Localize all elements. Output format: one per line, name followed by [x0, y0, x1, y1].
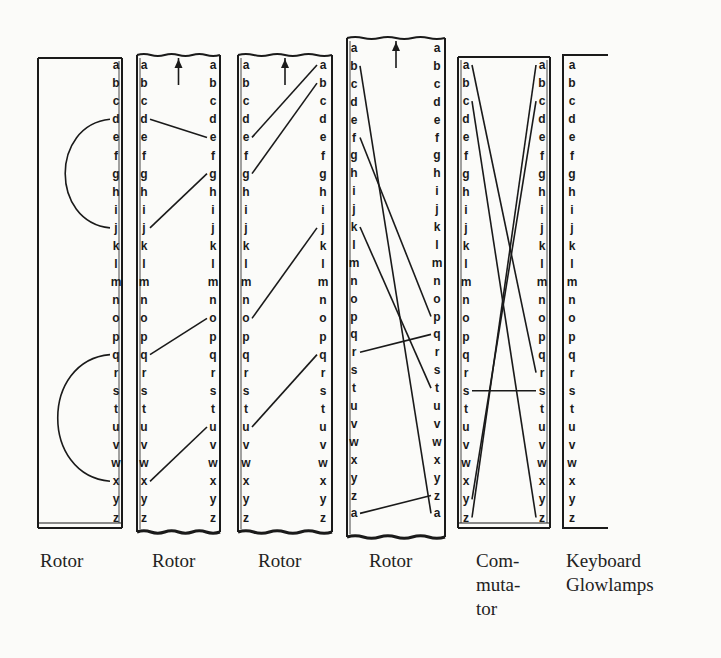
keyboard-label-line-1: Keyboard	[566, 551, 641, 571]
rotor-1-right-contact: x	[113, 474, 120, 488]
rotor-2-left-contact: z	[141, 511, 147, 525]
rotor-2-left-contact: v	[141, 438, 148, 452]
glowlamp-g: g	[568, 167, 575, 181]
rotor-3-right-contact: j	[320, 221, 324, 235]
rotor-4-right-contact: d	[433, 95, 440, 109]
rotor-2-wire	[150, 427, 207, 481]
rotor-3-right-contact: f	[321, 149, 326, 163]
rotor-3-wire	[252, 228, 317, 319]
rotor-2-right-contact: v	[210, 438, 217, 452]
rotor-3-left-contact: m	[241, 275, 252, 289]
rotor-1-right-contact: m	[111, 275, 122, 289]
commutator-left-contact: e	[463, 130, 470, 144]
commutator-left-contact: q	[462, 348, 469, 362]
commutator-left-contact: v	[463, 438, 470, 452]
commutator-wire	[472, 65, 536, 518]
rotor-4-left-contact: u	[350, 399, 357, 413]
rotor-1-right-contact: g	[112, 167, 119, 181]
rotor-4-left-contact: x	[351, 453, 358, 467]
rotor-2-left-contact: x	[141, 474, 148, 488]
commutator-right-contact: w	[536, 456, 547, 470]
commutator-right-contact: s	[539, 384, 546, 398]
glowlamp-t: t	[570, 402, 574, 416]
rotor-4-left-contact: h	[350, 166, 357, 180]
rotor-1-right-contact: t	[114, 402, 118, 416]
glowlamp-w: w	[566, 456, 577, 470]
glowlamp-q: q	[568, 348, 575, 362]
rotor-2-left-contact: g	[140, 167, 147, 181]
rotor-1-right-contact: q	[112, 348, 119, 362]
rotor-4-left-contact: d	[350, 95, 357, 109]
rotor-3-left-contact: g	[242, 167, 249, 181]
rotor-2-left-contact: h	[140, 185, 147, 199]
rotor-4-wire	[360, 227, 431, 388]
rotor-2-right-contact: w	[207, 456, 218, 470]
commutator-right-contact: c	[539, 94, 546, 108]
rotor-4-left-contact: e	[351, 113, 358, 127]
rotor-4-right-contact: o	[433, 292, 440, 306]
rotor-3-left-contact: n	[242, 293, 249, 307]
commutator-right-contact: n	[538, 293, 545, 307]
rotor-1-right-contact: a	[113, 58, 120, 72]
rotor-2-left-contact: w	[138, 456, 149, 470]
rotor-4-label: Rotor	[369, 551, 412, 571]
rotor-4-right-contact: w	[431, 435, 442, 449]
rotor-3-wire	[252, 355, 317, 427]
commutator-right-contact: z	[539, 511, 545, 525]
rotor-4-left-contact: f	[352, 131, 357, 145]
rotor-2-right-contact: x	[210, 474, 217, 488]
commutator-right-contact: e	[539, 130, 546, 144]
rotor-4-left-contact: k	[351, 220, 358, 234]
rotor-4-left-contact: q	[350, 327, 357, 341]
rotor-3-left-contact: d	[242, 112, 249, 126]
rotor-2-right-contact: t	[211, 402, 215, 416]
glowlamp-p: p	[568, 330, 575, 344]
commutator-left-contact: o	[462, 311, 469, 325]
rotor-3-right-contact: w	[317, 456, 328, 470]
glowlamp-v: v	[569, 438, 576, 452]
rotor-2-right-contact: r	[211, 366, 216, 380]
rotor-4-right-contact: u	[433, 399, 440, 413]
rotor-2-left-contact: n	[140, 293, 147, 307]
rotor-1-right-contact: p	[112, 330, 119, 344]
rotor-2-left-contact: a	[141, 58, 148, 72]
rotor-3-left-contact: u	[242, 420, 249, 434]
rotor-4-right-contact: c	[434, 77, 441, 91]
rotor-2-top-edge	[137, 54, 220, 56]
commutator-left-contact: n	[462, 293, 469, 307]
rotor-1-right-contact: w	[110, 456, 121, 470]
rotor-3-left-contact: z	[243, 511, 249, 525]
rotor-2-right-contact: z	[210, 511, 216, 525]
rotor-4-right-contact: v	[434, 417, 441, 431]
rotor-1-right-contact: h	[112, 185, 119, 199]
rotor-4-left-contact: a	[351, 506, 358, 520]
rotor-4-left-contact: r	[352, 345, 357, 359]
commutator-left-contact: u	[462, 420, 469, 434]
commutator-left-contact: x	[463, 474, 470, 488]
rotor-4-top-edge	[347, 37, 445, 39]
rotor-4-left-contact: a	[351, 41, 358, 55]
rotor-2-right-contact: a	[210, 58, 217, 72]
glowlamp-u: u	[568, 420, 575, 434]
rotor-4-left-contact: n	[350, 274, 357, 288]
rotor-3-right-contact: e	[320, 130, 327, 144]
glowlamp-a: a	[569, 58, 576, 72]
rotor-3-right-contact: y	[320, 492, 327, 506]
rotor-2-wire	[150, 174, 207, 228]
rotor-3-left-contact: q	[242, 348, 249, 362]
rotor-4-right-contact: a	[434, 506, 441, 520]
rotor-3-left-contact: y	[243, 492, 250, 506]
rotor-1-right-contact: f	[114, 149, 119, 163]
rotor-3-left-contact: t	[244, 402, 248, 416]
glowlamp-i: i	[570, 203, 573, 217]
commutator-label-line-2: muta-	[476, 575, 520, 595]
rotor-3-left-contact: f	[244, 149, 249, 163]
rotor-3-left-contact: l	[244, 257, 247, 271]
rotor-1-right-contact: k	[113, 239, 120, 253]
rotor-3-top-edge	[238, 54, 332, 56]
commutator-left-contact: g	[462, 167, 469, 181]
rotor-4-left-contact: y	[351, 471, 358, 485]
rotor-3-left-contact: e	[243, 130, 250, 144]
rotor-1-right-contact: d	[112, 112, 119, 126]
commutator-right-contact: d	[538, 112, 545, 126]
